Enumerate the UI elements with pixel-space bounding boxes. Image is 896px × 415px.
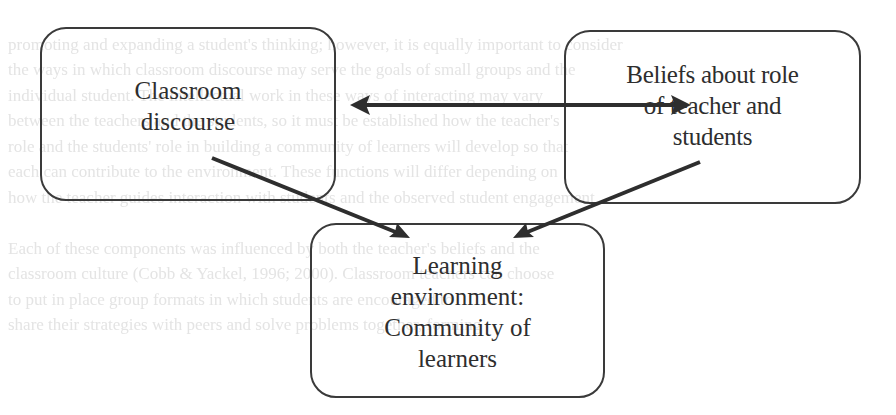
node-label-line: learners [418, 345, 497, 372]
node-label: Beliefs about role of teacher and studen… [626, 59, 798, 152]
node-label-line: Classroom [135, 77, 242, 104]
concept-diagram: Classroom discourse Beliefs about role o… [0, 0, 896, 415]
node-label-line: of teacher and [644, 92, 781, 119]
node-beliefs-about-role: Beliefs about role of teacher and studen… [564, 30, 861, 204]
node-label-line: environment: [391, 283, 524, 310]
node-label-line: Community of [384, 314, 531, 341]
node-classroom-discourse: Classroom discourse [40, 27, 336, 201]
node-label: Classroom discourse [135, 75, 242, 137]
node-learning-environment: Learning environment: Community of learn… [310, 223, 605, 398]
node-label-line: students [673, 123, 753, 150]
node-label: Learning environment: Community of learn… [384, 250, 531, 374]
node-label-line: Learning [412, 252, 502, 279]
node-label-line: Beliefs about role [626, 61, 798, 88]
node-label-line: discourse [141, 108, 235, 135]
